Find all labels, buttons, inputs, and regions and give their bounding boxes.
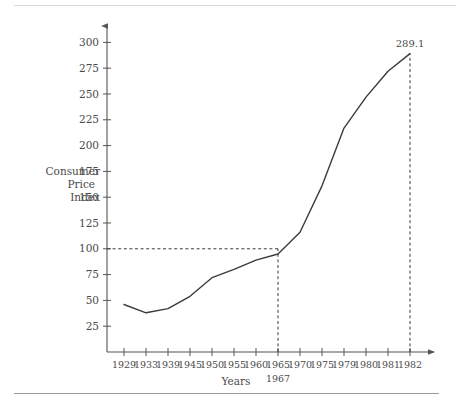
end-value-annotation: 289.1 [396,38,425,49]
base-year-annotation: 1967 [266,373,290,384]
x-axis-title: Years [221,375,251,387]
x-axis-tick-label: 1933 [134,359,158,370]
y-axis-title-line-2: Price [67,178,95,190]
y-axis-title-line-1: Consumer [46,165,101,177]
x-axis-tick-label: 1965 [266,359,290,370]
x-axis-tick-label: 1960 [244,359,268,370]
x-axis-tick-label: 1955 [222,359,246,370]
bottom-divider [14,393,439,394]
y-axis-tick-label: 125 [79,217,99,229]
y-axis-title-line-3: Index [70,191,100,203]
x-axis-tick-label: 1982 [398,359,422,370]
y-axis-tick-label: 50 [86,294,99,306]
y-axis-tick-label: 250 [79,88,99,100]
y-axis-tick-label: 275 [79,62,99,74]
x-axis-labels: 1929193319391945195019551960196519701975… [112,359,422,370]
x-axis-tick-label: 1950 [200,359,224,370]
y-axis-tick-label: 100 [79,242,99,254]
x-axis-tick-label: 1975 [310,359,334,370]
cpi-series-line [124,54,410,313]
cpi-line-chart: 255075100125150175200225250275300 192919… [0,0,470,403]
y-axis-tick-label: 25 [86,320,99,332]
y-axis-tick-label: 225 [79,113,99,125]
x-axis-tick-label: 1980 [354,359,378,370]
chart-page: 255075100125150175200225250275300 192919… [0,0,470,403]
x-axis-tick-label: 1939 [156,359,180,370]
y-axis-tick-label: 300 [79,36,99,48]
x-axis-tick-label: 1979 [332,359,356,370]
x-axis-tick-label: 1929 [112,359,136,370]
y-axis-tick-label: 200 [79,139,99,151]
x-axis-tick-label: 1970 [288,359,312,370]
x-axis-tick-label: 1981 [376,359,400,370]
x-axis-tick-label: 1945 [178,359,202,370]
y-axis-tick-label: 75 [86,268,99,280]
